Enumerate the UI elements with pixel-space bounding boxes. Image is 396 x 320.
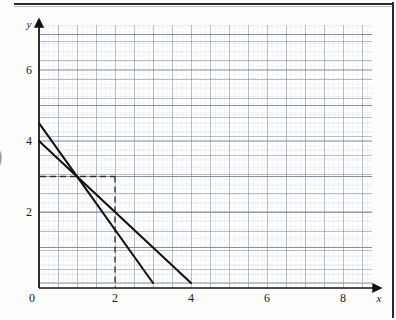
graph-figure: y x 0 2 4 6 8 2 4 6 — [0, 0, 396, 320]
y-axis-label: y — [26, 18, 32, 30]
y-tick-2: 2 — [26, 205, 32, 219]
x-tick-4: 4 — [188, 291, 194, 305]
x-tick-6: 6 — [264, 291, 270, 305]
graph-svg: y x 0 2 4 6 8 2 4 6 — [0, 0, 396, 320]
y-tick-6: 6 — [26, 63, 32, 77]
x-axis-label: x — [376, 292, 382, 304]
scanned-page: ) — [0, 0, 396, 320]
x-tick-0: 0 — [29, 291, 35, 305]
grid-region — [39, 25, 372, 288]
x-tick-8: 8 — [340, 291, 346, 305]
y-tick-4: 4 — [26, 134, 32, 148]
x-tick-2: 2 — [112, 291, 118, 305]
